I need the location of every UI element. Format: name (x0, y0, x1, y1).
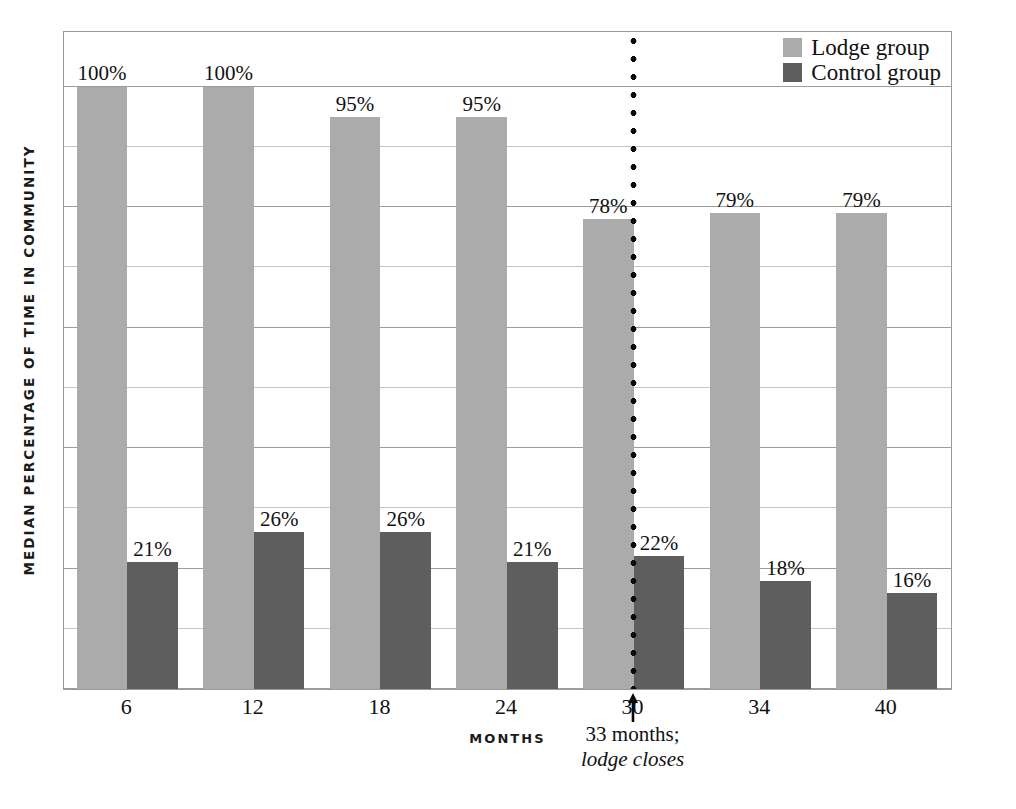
bar-value-label: 95% (336, 93, 375, 115)
bar-value-label: 21% (513, 538, 552, 560)
legend: Lodge group Control group (783, 36, 941, 84)
bar-group-12-months: 100%26% (203, 87, 304, 689)
bar-lodge-6[interactable]: 100% (77, 87, 128, 690)
legend-swatch-icon-lodge (783, 38, 802, 57)
bar-value-label: 79% (842, 189, 881, 211)
chart-page: MEDIAN PERCENTAGE OF TIME IN COMMUNITY 1… (0, 0, 1016, 809)
y-axis-title-container: MEDIAN PERCENTAGE OF TIME IN COMMUNITY (0, 30, 58, 690)
x-tick-6: 6 (121, 694, 132, 720)
bar-value-label: 100% (204, 62, 253, 84)
bar-control-34[interactable]: 18% (760, 581, 811, 689)
x-tick-18: 18 (368, 694, 390, 720)
legend-label-control: Control group (811, 61, 941, 84)
bar-value-label: 16% (893, 569, 932, 591)
bar-group-24-months: 95%21% (456, 87, 557, 689)
legend-item-lodge-group[interactable]: Lodge group (783, 36, 941, 59)
bar-lodge-18[interactable]: 95% (330, 117, 381, 689)
x-tick-34: 34 (748, 694, 770, 720)
annotation-line-2: lodge closes (518, 747, 748, 772)
up-arrow-icon (626, 692, 640, 722)
x-tick-24: 24 (495, 694, 517, 720)
y-axis-title: MEDIAN PERCENTAGE OF TIME IN COMMUNITY (21, 144, 37, 575)
bar-lodge-24[interactable]: 95% (456, 117, 507, 689)
x-tick-12: 12 (242, 694, 264, 720)
bar-group-6-months: 100%21% (77, 87, 178, 689)
bar-value-label: 100% (77, 62, 126, 84)
lodge-closes-dotted-line (630, 32, 637, 689)
bar-value-label: 78% (589, 195, 628, 217)
bar-lodge-12[interactable]: 100% (203, 87, 254, 690)
bar-control-30[interactable]: 22% (634, 556, 685, 689)
bar-value-label: 26% (386, 508, 425, 530)
bar-control-40[interactable]: 16% (887, 593, 938, 689)
bar-group-40-months: 79%16% (836, 87, 937, 689)
x-axis-ticks: 6121824303440 (63, 694, 952, 728)
x-tick-40: 40 (875, 694, 897, 720)
legend-label-lodge: Lodge group (811, 36, 929, 59)
plot-area: 100%21%100%26%95%26%95%21%78%22%79%18%79… (63, 31, 952, 690)
bar-value-label: 79% (716, 189, 755, 211)
legend-swatch-icon-control (783, 63, 802, 82)
bar-lodge-40[interactable]: 79% (836, 213, 887, 689)
bar-control-18[interactable]: 26% (380, 532, 431, 689)
bar-group-18-months: 95%26% (330, 87, 431, 689)
bar-control-24[interactable]: 21% (507, 562, 558, 689)
bar-value-label: 95% (462, 93, 501, 115)
bar-group-34-months: 79%18% (710, 87, 811, 689)
x-axis-title: MONTHS (63, 731, 952, 746)
bar-value-label: 21% (133, 538, 172, 560)
bar-lodge-34[interactable]: 79% (710, 213, 761, 689)
annotation-line-1: 33 months; (518, 722, 748, 747)
bar-value-label: 26% (260, 508, 299, 530)
bar-control-6[interactable]: 21% (127, 562, 178, 689)
bar-value-label: 18% (766, 557, 805, 579)
legend-item-control-group[interactable]: Control group (783, 61, 941, 84)
bar-value-label: 22% (640, 532, 679, 554)
bar-lodge-30[interactable]: 78% (583, 219, 634, 689)
bar-control-12[interactable]: 26% (254, 532, 305, 689)
lodge-closes-annotation: 33 months; lodge closes (518, 692, 748, 772)
bars-layer: 100%21%100%26%95%26%95%21%78%22%79%18%79… (64, 87, 951, 689)
